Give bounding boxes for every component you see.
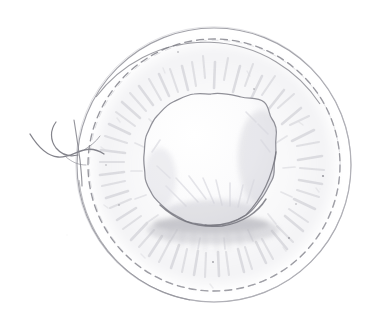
sketch-illustration: [0, 0, 372, 326]
sketch-canvas: [0, 0, 372, 326]
